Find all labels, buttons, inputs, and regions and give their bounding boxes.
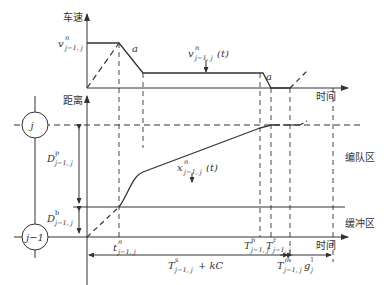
platoon-timing-diagram: 车速 时间 距离 时间 编队区 缓冲区 a a j j−1 v n j−1, j… [0, 0, 384, 285]
zone-buffer-label: 缓冲区 [345, 217, 375, 229]
svg-text:d: d [285, 256, 289, 264]
svg-text:j−1, j: j−1, j [53, 219, 73, 227]
distance-axis-label: 距离 [63, 94, 83, 106]
interval-gap-label: g l j [304, 256, 313, 274]
svg-text:s: s [175, 256, 178, 264]
svg-text:b: b [55, 209, 59, 217]
speed-axis-label: 车速 [63, 11, 83, 23]
svg-text:n: n [184, 158, 188, 166]
speed-label: v n j−1, j [58, 34, 83, 52]
svg-text:D: D [46, 153, 55, 164]
buffer-distance-label: D b j−1, j [46, 209, 73, 227]
svg-text:n: n [195, 44, 199, 52]
svg-text:j−1, j: j−1, j [173, 266, 193, 274]
time-mark-t-n: t n j−1, j [113, 238, 136, 256]
svg-text:j−1, j: j−1, j [271, 246, 291, 254]
svg-text:p: p [251, 236, 255, 244]
svg-text:v: v [58, 38, 64, 49]
svg-text:j−1, j: j−1, j [116, 248, 136, 256]
time-axis-top-label: 时间 [316, 90, 336, 102]
svg-text:l: l [311, 256, 313, 264]
zone-platoon-label: 编队区 [345, 151, 375, 163]
decel-label-2: a [266, 71, 272, 82]
time-mark-T-d: T d j−1, j [277, 256, 302, 274]
svg-text:j−1, j: j−1, j [193, 54, 213, 62]
svg-text:x: x [177, 162, 183, 173]
time-mark-T-r: T r j−1, j [266, 236, 291, 254]
position-curve-label: x n j−1, j (t) [177, 158, 218, 176]
node-j [22, 112, 48, 138]
speed-curve-label: v n j−1, j (t) [188, 44, 229, 62]
svg-text:j−1, j: j−1, j [53, 159, 73, 167]
svg-text:v: v [188, 48, 194, 59]
svg-text:j−1, j: j−1, j [182, 168, 202, 176]
svg-text:(t): (t) [217, 48, 229, 59]
svg-text:n: n [65, 34, 69, 42]
svg-text:n: n [118, 238, 122, 246]
svg-text:D: D [46, 213, 55, 224]
svg-text:p: p [55, 149, 59, 157]
svg-text:+ kC: + kC [198, 260, 224, 271]
svg-text:j−1, j: j−1, j [282, 266, 302, 274]
time-axis-bottom-label: 时间 [316, 239, 336, 251]
reaccel-dashed [290, 70, 308, 88]
svg-text:g: g [304, 260, 310, 271]
svg-text:j−1, j: j−1, j [63, 44, 83, 52]
node-j-minus-1-label: j−1 [24, 232, 44, 243]
platoon-distance-label: D p j−1, j [46, 149, 73, 167]
interval-main-label: T s j−1, j + kC [168, 256, 224, 274]
position-dashed [87, 207, 119, 237]
accel-dashed [87, 43, 119, 88]
time-guides [119, 43, 333, 262]
svg-text:(t): (t) [206, 162, 218, 173]
decel-label-1: a [132, 43, 138, 54]
